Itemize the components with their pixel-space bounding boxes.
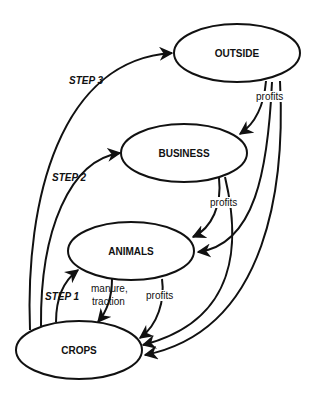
node-business: BUSINESS xyxy=(121,124,247,182)
outside-profits-label: profits xyxy=(256,91,283,102)
edge-animals-profits xyxy=(140,279,163,338)
business-profits-label: profits xyxy=(210,197,237,208)
step1-label: STEP 1 xyxy=(45,291,80,302)
flow-diagram: OUTSIDE BUSINESS ANIMALS CROPS STEP 3 ST… xyxy=(0,0,320,402)
manure-label-line1: manure, xyxy=(91,283,128,294)
node-animals: ANIMALS xyxy=(68,222,194,280)
node-crops: CROPS xyxy=(16,321,142,379)
step3-label: STEP 3 xyxy=(69,75,104,86)
edge-outside-profits-business xyxy=(240,81,266,134)
node-business-label: BUSINESS xyxy=(158,148,209,159)
step2-label: STEP 2 xyxy=(52,172,87,183)
node-outside: OUTSIDE xyxy=(174,24,300,82)
node-outside-label: OUTSIDE xyxy=(215,48,260,59)
node-animals-label: ANIMALS xyxy=(108,246,154,257)
manure-label-line2: traction xyxy=(92,296,125,307)
node-crops-label: CROPS xyxy=(61,345,97,356)
animals-profits-label: profits xyxy=(146,290,173,301)
